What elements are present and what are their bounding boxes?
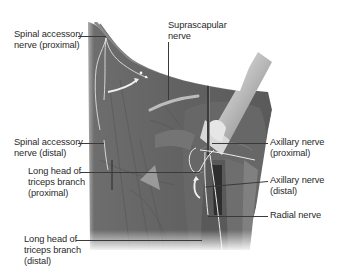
label-spinal-accessory-proximal: Spinal accessory nerve (proximal) <box>14 29 83 51</box>
label-long-head-triceps-distal: Long head of triceps branch (distal) <box>24 234 81 267</box>
label-axillary-proximal: Axillary nerve (proximal) <box>270 137 324 159</box>
label-radial: Radial nerve <box>270 210 321 221</box>
label-long-head-triceps-proximal: Long head of triceps branch (proximal) <box>28 166 85 199</box>
leader-long-head-triceps-proximal <box>80 172 200 173</box>
label-suprascapular: Suprascapular nerve <box>168 20 227 42</box>
leader-suprascapular <box>168 42 169 100</box>
label-spinal-accessory-distal: Spinal accessory nerve (distal) <box>14 137 83 159</box>
leader-radial <box>208 216 268 217</box>
leader-spinal-accessory-proximal <box>78 36 106 37</box>
leader-axillary-proximal <box>212 143 268 144</box>
anatomical-figure: Spinal accessory nerve (proximal) Supras… <box>0 0 343 278</box>
label-axillary-distal: Axillary nerve (distal) <box>270 175 324 197</box>
leader-long-head-triceps-distal <box>76 240 202 241</box>
leader-spinal-accessory-distal <box>78 143 104 144</box>
